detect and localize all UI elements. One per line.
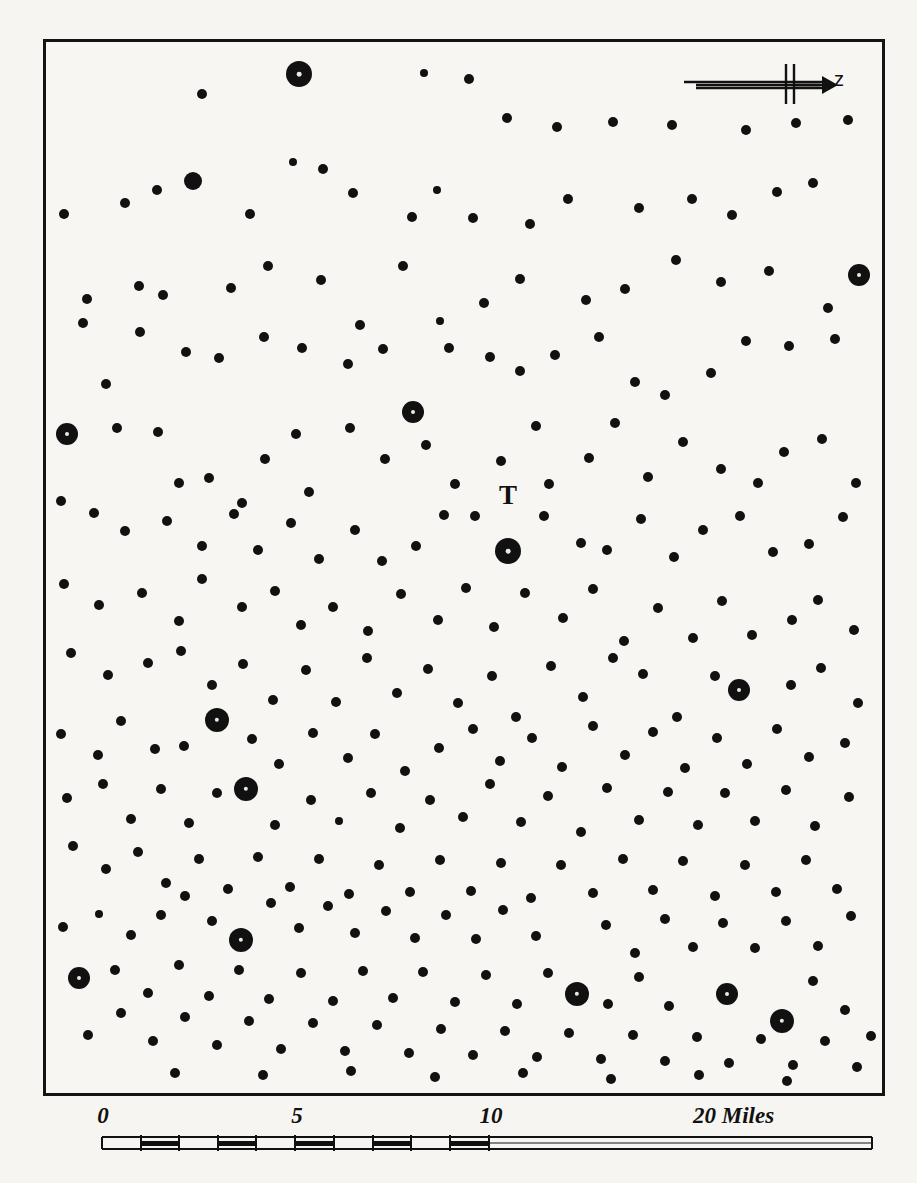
map-frame: T z	[43, 39, 885, 1096]
settlement-dot	[204, 991, 214, 1001]
settlement-dot	[710, 891, 720, 901]
settlement-dot	[83, 1030, 93, 1040]
settlement-dot	[276, 1044, 286, 1054]
settlement-dot	[770, 1009, 794, 1033]
settlement-dot	[564, 1028, 574, 1038]
settlement-dot	[335, 817, 343, 825]
settlement-dot	[174, 478, 184, 488]
settlement-dot	[636, 514, 646, 524]
settlement-dot	[343, 753, 353, 763]
settlement-dot	[120, 198, 130, 208]
settlement-dot	[563, 194, 573, 204]
settlement-dot	[345, 423, 355, 433]
settlement-dot	[407, 212, 417, 222]
settlement-dot	[348, 188, 358, 198]
direction-label: z	[834, 69, 844, 89]
settlement-dot	[727, 210, 737, 220]
settlement-dot	[212, 788, 222, 798]
settlement-dot	[436, 1024, 446, 1034]
settlement-dot	[516, 817, 526, 827]
settlement-dot	[174, 616, 184, 626]
settlement-dot	[143, 658, 153, 668]
settlement-dot	[212, 1040, 222, 1050]
settlement-dot	[813, 941, 823, 951]
settlement-dot	[253, 852, 263, 862]
scale-bar-labels: 051020 Miles	[43, 1104, 893, 1132]
scale-tick-label: 0	[97, 1104, 109, 1127]
settlement-dot	[801, 855, 811, 865]
settlement-dot	[308, 728, 318, 738]
settlement-dot	[362, 653, 372, 663]
settlement-dot	[464, 74, 474, 84]
settlement-dot	[176, 646, 186, 656]
settlement-dot	[234, 777, 258, 801]
settlement-dot	[179, 741, 189, 751]
settlement-dot	[468, 1050, 478, 1060]
settlement-dot	[314, 854, 324, 864]
settlement-dot	[634, 972, 644, 982]
settlement-dot	[660, 914, 670, 924]
settlement-dot	[453, 698, 463, 708]
settlement-dot	[466, 886, 476, 896]
settlement-dot	[838, 512, 848, 522]
settlement-dot	[137, 588, 147, 598]
settlement-dot	[134, 281, 144, 291]
settlement-dot	[223, 884, 233, 894]
settlement-dot	[470, 511, 480, 521]
settlement-dot	[286, 518, 296, 528]
settlement-dot	[852, 1062, 862, 1072]
settlement-dot	[810, 821, 820, 831]
settlement-dot	[197, 574, 207, 584]
settlement-dot	[395, 823, 405, 833]
settlement-dot	[495, 756, 505, 766]
settlement-dot	[294, 923, 304, 933]
settlement-dot	[496, 858, 506, 868]
settlement-dot	[425, 795, 435, 805]
settlement-dot	[411, 541, 421, 551]
settlement-dot	[630, 377, 640, 387]
settlement-dot	[660, 1056, 670, 1066]
settlement-dot	[820, 1036, 830, 1046]
settlement-dot	[667, 120, 677, 130]
settlement-dot	[471, 934, 481, 944]
north-arrow-icon: z	[682, 62, 862, 106]
settlement-dot	[678, 437, 688, 447]
settlement-dot	[588, 721, 598, 731]
settlement-dot	[237, 602, 247, 612]
settlement-dot	[557, 762, 567, 772]
settlement-dot	[180, 1012, 190, 1022]
settlement-dot	[698, 525, 708, 535]
settlement-dot	[692, 1032, 702, 1042]
settlement-dot	[495, 538, 521, 564]
settlement-dot	[588, 584, 598, 594]
settlement-dot	[717, 596, 727, 606]
settlement-dot	[485, 779, 495, 789]
settlement-dot	[263, 261, 273, 271]
settlement-dot	[318, 164, 328, 174]
settlement-dot	[258, 1070, 268, 1080]
settlement-dot	[264, 994, 274, 1004]
settlement-dot	[396, 589, 406, 599]
settlement-dot	[237, 498, 247, 508]
settlement-dot	[724, 1058, 734, 1068]
settlement-dot	[578, 692, 588, 702]
settlement-dot	[181, 347, 191, 357]
settlement-dot	[718, 918, 728, 928]
settlement-dot	[270, 820, 280, 830]
settlement-dot	[229, 509, 239, 519]
settlement-dot	[618, 854, 628, 864]
settlement-dot	[152, 185, 162, 195]
settlement-dot	[531, 421, 541, 431]
settlement-dot	[110, 965, 120, 975]
settlement-dot	[112, 423, 122, 433]
settlement-dot	[245, 209, 255, 219]
settlement-dot	[764, 266, 774, 276]
settlement-dot	[197, 89, 207, 99]
settlement-dot	[671, 255, 681, 265]
settlement-dot	[531, 931, 541, 941]
settlement-dot	[274, 759, 284, 769]
settlement-dot	[817, 434, 827, 444]
settlement-dot	[844, 792, 854, 802]
settlement-dot	[511, 712, 521, 722]
settlement-dot	[518, 1068, 528, 1078]
